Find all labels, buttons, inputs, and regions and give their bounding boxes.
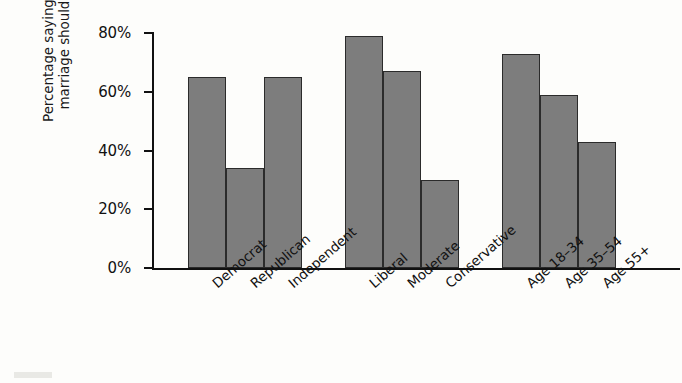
y-axis-title-line-2: marriage should be legal <box>56 0 72 156</box>
y-axis-tick: 80% <box>144 32 153 34</box>
y-axis-title: Percentage saying same-sex marriage shou… <box>40 0 73 156</box>
y-axis-title-line-1: Percentage saying same-sex <box>40 0 56 156</box>
y-axis-tick: 60% <box>144 91 153 93</box>
y-axis-tick-label: 80% <box>98 24 131 42</box>
bar-chart: Percentage saying same-sex marriage shou… <box>0 0 682 383</box>
y-axis-tick: 20% <box>144 208 153 210</box>
bar <box>188 77 226 268</box>
scan-artifact <box>14 372 52 378</box>
bar <box>383 71 421 268</box>
y-axis-tick-label: 0% <box>108 259 131 277</box>
y-axis-tick: 40% <box>144 150 153 152</box>
y-axis-tick: 0% <box>144 267 153 269</box>
y-axis-tick-label: 20% <box>98 200 131 218</box>
y-axis-tick-label: 40% <box>98 142 131 160</box>
plot-area: 0%20%40%60%80% DemocratRepublicanIndepen… <box>152 33 652 268</box>
y-axis-tick-label: 60% <box>98 83 131 101</box>
